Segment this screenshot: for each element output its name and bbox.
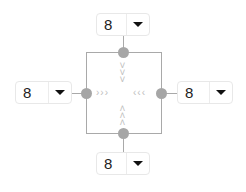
arrows-from-top-icon: ˅ ˅ ˅ [118,62,128,83]
bottom-dropdown-button[interactable] [126,153,149,174]
caret-down-icon [216,90,226,95]
top-value-select[interactable]: 8 [96,13,150,36]
arrows-from-left-icon: ››› [96,89,109,96]
arrows-from-right-icon: ‹‹‹ [133,89,146,96]
left-dropdown-button[interactable] [48,82,71,103]
arrows-from-bottom-icon: ˄ ˄ ˄ [118,105,128,126]
left-value-select[interactable]: 8 [15,81,72,104]
right-handle[interactable] [156,88,167,99]
left-handle[interactable] [81,88,92,99]
bottom-value: 8 [97,153,126,174]
arrow-down-icon: ˅ [118,76,128,83]
right-value-select[interactable]: 8 [177,81,233,104]
top-handle[interactable] [118,47,129,58]
caret-down-icon [55,90,65,95]
right-value: 8 [178,82,209,103]
top-value: 8 [97,14,126,35]
bottom-handle[interactable] [118,128,129,139]
caret-down-icon [133,22,143,27]
arrow-up-icon: ˄ [118,119,128,126]
bottom-value-select[interactable]: 8 [96,152,150,175]
right-dropdown-button[interactable] [209,82,232,103]
left-value: 8 [16,82,48,103]
top-dropdown-button[interactable] [126,14,149,35]
caret-down-icon [133,161,143,166]
